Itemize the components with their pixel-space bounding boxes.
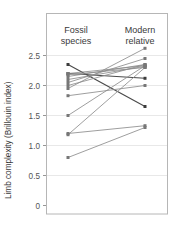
column-header-right-line1: Modern [125, 25, 156, 35]
chart-canvas: Limb complexity (Brillouin index) 2.52.0… [0, 0, 178, 226]
y-tick-label: 0 [35, 202, 40, 211]
data-point-marker [67, 75, 70, 78]
data-point-marker [67, 84, 70, 87]
y-axis-ticks: 2.52.01.51.00.50 [29, 52, 47, 211]
column-header-left-line1: Fossil [64, 25, 88, 35]
column-header-left-line2: species [61, 36, 92, 46]
data-point-marker [144, 77, 147, 80]
data-point-marker [144, 84, 147, 87]
data-point-marker [67, 94, 70, 97]
data-point-marker [67, 78, 70, 81]
data-point-marker [67, 87, 70, 90]
column-header-right-line2: relative [125, 36, 154, 46]
data-point-marker [144, 105, 147, 108]
y-tick-label: 1.0 [29, 142, 41, 151]
data-point-marker [67, 63, 70, 66]
data-point-marker [144, 47, 147, 50]
y-axis-label: Limb complexity (Brillouin index) [4, 81, 13, 199]
y-axis-label-text: Limb complexity (Brillouin index) [4, 81, 13, 199]
y-tick-label: 2.0 [29, 82, 41, 91]
slopegraph-figure: Limb complexity (Brillouin index) 2.52.0… [0, 0, 178, 226]
data-point-marker [67, 114, 70, 117]
data-point-marker [67, 133, 70, 136]
y-tick-label: 1.5 [29, 112, 41, 121]
data-point-marker [144, 66, 147, 69]
y-tick-label: 2.5 [29, 52, 41, 61]
data-point-marker [144, 57, 147, 60]
data-point-marker [144, 126, 147, 129]
data-point-marker [67, 156, 70, 159]
data-point-marker [67, 81, 70, 84]
y-tick-label: 0.5 [29, 172, 41, 181]
